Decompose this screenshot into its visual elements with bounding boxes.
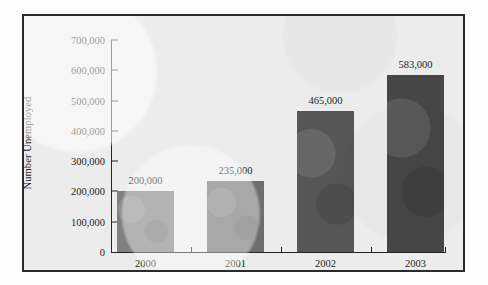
y-tick-label: 300,000	[39, 156, 105, 167]
y-axis-title: Number Unemployed	[22, 68, 38, 218]
y-tick-mark	[111, 40, 118, 41]
x-tick-mark	[371, 247, 372, 252]
y-tick-label: 100,000	[39, 216, 105, 227]
bar-value-label: 200,000	[128, 175, 162, 186]
y-tick-label: 200,000	[39, 186, 105, 197]
bar-2002: 465,000	[297, 111, 354, 252]
y-axis-line	[111, 40, 112, 252]
bar-rect	[117, 191, 174, 252]
x-category-label: 2003	[405, 258, 426, 269]
bar-2003: 583,000	[387, 75, 444, 252]
bar-value-label: 235,000	[218, 165, 252, 176]
y-tick-label: 0	[39, 247, 105, 258]
plot-area: Number Unemployed 0100,000200,000300,000…	[24, 16, 463, 270]
chart-screenshot: Number Unemployed 0100,000200,000300,000…	[0, 0, 488, 285]
y-tick-mark	[111, 161, 118, 162]
y-tick-label: 700,000	[39, 35, 105, 46]
bar-rect	[387, 75, 444, 252]
y-tick-label: 600,000	[39, 65, 105, 76]
x-axis-line	[111, 252, 446, 253]
x-category-label: 2002	[315, 258, 336, 269]
x-tick-mark	[445, 247, 446, 252]
x-category-label: 2001	[225, 258, 246, 269]
bar-2001: 235,000	[207, 181, 264, 252]
bar-2000: 200,000	[117, 191, 174, 252]
bar-rect	[207, 181, 264, 252]
y-tick-mark	[111, 100, 118, 101]
y-tick-label: 400,000	[39, 125, 105, 136]
y-tick-mark	[111, 130, 118, 131]
bar-value-label: 465,000	[308, 95, 342, 106]
y-tick-mark	[111, 70, 118, 71]
y-tick-label: 500,000	[39, 95, 105, 106]
x-tick-mark	[191, 247, 192, 252]
bar-value-label: 583,000	[398, 59, 432, 70]
bar-rect	[297, 111, 354, 252]
x-category-label: 2000	[135, 258, 156, 269]
x-tick-mark	[281, 247, 282, 252]
figure-frame: Number Unemployed 0100,000200,000300,000…	[22, 14, 465, 272]
